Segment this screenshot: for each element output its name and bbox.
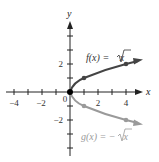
x-tick-label: −4 — [9, 98, 19, 108]
y-axis-label: y — [66, 8, 72, 19]
y-tick-label: −2 — [53, 115, 63, 125]
x-axis: −4 −2 2 4 x — [6, 86, 151, 108]
g-label-text: g(x) = − — [81, 131, 116, 143]
graph: −4 −2 2 4 x 2 −2 y 0 — [0, 0, 159, 162]
g-arrow-icon — [133, 120, 143, 127]
f-arrow-icon — [133, 58, 143, 65]
f-label-text: f(x) = — [86, 52, 112, 64]
x-axis-arrow-icon — [135, 89, 143, 95]
x-tick-label: 2 — [96, 98, 101, 108]
x-axis-label: x — [145, 86, 151, 97]
data-point — [124, 62, 129, 67]
svg-text:f(x) = x: f(x) = x — [86, 52, 125, 64]
y-axis-arrow-icon — [67, 21, 73, 29]
g-label: g(x) = −x — [81, 129, 132, 143]
data-point — [82, 76, 87, 81]
series-g — [70, 92, 143, 126]
data-point — [82, 104, 87, 109]
y-axis: 2 −2 y — [53, 8, 73, 156]
y-tick-label: 2 — [59, 59, 64, 69]
origin-label: 0 — [63, 94, 68, 104]
x-tick-label: 4 — [124, 98, 129, 108]
svg-text:g(x) = −x: g(x) = −x — [81, 131, 129, 143]
x-tick-label: −2 — [36, 98, 46, 108]
series-f — [70, 58, 143, 92]
origin-point — [67, 89, 73, 95]
f-label: f(x) = x — [86, 50, 131, 64]
data-point — [124, 118, 129, 123]
